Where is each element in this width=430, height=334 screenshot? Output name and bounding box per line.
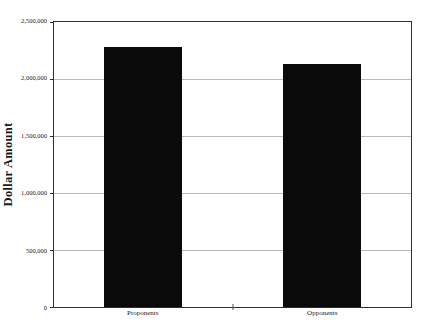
bar-proponents <box>104 47 182 307</box>
y-tick-label: 2,000,000 <box>21 75 47 82</box>
y-tick-mark <box>50 250 54 251</box>
y-tick-label: 0 <box>44 305 47 312</box>
bar-chart-figure: Dollar Amount 0500,0001,000,0001,500,000… <box>0 0 430 334</box>
y-tick-mark <box>50 22 54 23</box>
y-tick-label: 2,500,000 <box>21 18 47 25</box>
y-tick-mark <box>50 79 54 80</box>
y-tick-mark <box>50 307 54 308</box>
y-tick-mark <box>50 136 54 137</box>
y-tick-label: 1,500,000 <box>21 133 47 140</box>
bar-opponents <box>283 64 361 307</box>
y-axis-tick-labels: 0500,0001,000,0001,500,0002,000,0002,500… <box>0 21 49 308</box>
y-tick-label: 500,000 <box>26 247 47 254</box>
y-tick-mark <box>50 193 54 194</box>
category-label: Proponents <box>127 310 159 317</box>
plot-area <box>53 21 412 308</box>
x-axis-category-labels: ProponentsOpponents <box>53 310 412 324</box>
category-label: Opponents <box>307 310 337 317</box>
y-tick-label: 1,000,000 <box>21 190 47 197</box>
